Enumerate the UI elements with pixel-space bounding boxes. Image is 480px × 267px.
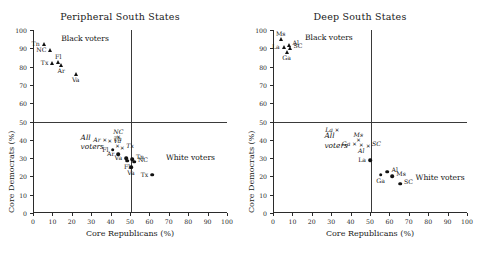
x-tick-label: 100 — [461, 218, 473, 225]
x-tick-label: 90 — [444, 218, 452, 225]
y-tick — [270, 67, 273, 68]
x-tick-label: 60 — [145, 218, 153, 225]
plot-inner: Black votersWhite votersAllvotersTnNCFlT… — [34, 30, 227, 212]
x-tick-label: 100 — [221, 218, 233, 225]
data-point-label: Ar — [57, 67, 64, 74]
x-tick-label: 90 — [204, 218, 212, 225]
panel-title: Deep South States — [240, 11, 480, 22]
data-point-marker: ✕ — [352, 142, 356, 146]
data-point-label: Ms — [354, 131, 364, 138]
x-tick — [292, 213, 293, 216]
x-tick-label: 70 — [165, 218, 173, 225]
y-tick — [30, 140, 33, 141]
data-point-marker: ✕ — [335, 128, 339, 132]
y-tick — [30, 85, 33, 86]
x-tick-label: 20 — [308, 218, 316, 225]
data-point-label: Tx — [41, 59, 49, 66]
x-tick-label: 40 — [347, 218, 355, 225]
y-tick-label: 70 — [9, 81, 27, 88]
x-tick — [91, 213, 92, 216]
group-annotation: White voters — [416, 173, 465, 182]
x-tick — [273, 213, 274, 216]
data-point-marker — [368, 158, 372, 162]
data-point-label: SC — [294, 42, 303, 49]
y-tick — [30, 67, 33, 68]
x-tick — [227, 213, 228, 216]
group-annotation: Black voters — [61, 34, 109, 43]
y-tick — [270, 213, 273, 214]
y-tick — [30, 158, 33, 159]
x-tick-label: 50 — [126, 218, 134, 225]
data-point-marker — [398, 182, 402, 186]
data-point-label: Tx — [141, 171, 149, 178]
panel-deep-south: Deep South States Black votersWhite vote… — [240, 0, 480, 267]
y-tick — [270, 140, 273, 141]
y-tick — [30, 30, 33, 31]
data-point-label: Va — [127, 169, 135, 176]
panel-peripheral-south: Peripheral South States Black votersWhit… — [0, 0, 240, 267]
x-tick-label: 0 — [31, 218, 35, 225]
plot-inner: Black votersWhite votersAllvotersMsAlSCL… — [274, 30, 467, 212]
group-annotation: All — [81, 133, 91, 142]
data-point-label: Ms — [396, 170, 406, 177]
x-axis-title: Core Republicans (%) — [86, 229, 174, 238]
x-tick — [111, 213, 112, 216]
x-tick-label: 80 — [424, 218, 432, 225]
data-point-label: SC — [372, 140, 381, 147]
x-tick-label: 10 — [288, 218, 296, 225]
x-tick — [467, 213, 468, 216]
data-point-marker — [42, 42, 46, 46]
data-point-marker — [282, 45, 286, 49]
data-point-marker — [151, 173, 155, 177]
y-tick — [270, 195, 273, 196]
y-tick-label: 50 — [9, 118, 27, 125]
x-tick-label: 10 — [48, 218, 56, 225]
x-tick-label: 30 — [87, 218, 95, 225]
y-tick — [270, 122, 273, 123]
y-tick — [270, 30, 273, 31]
data-point-marker: ✕ — [115, 144, 119, 148]
figure-scatter-pair: Peripheral South States Black votersWhit… — [0, 0, 480, 267]
y-tick — [270, 176, 273, 177]
x-tick-label: 0 — [271, 218, 275, 225]
x-axis-title: Core Republicans (%) — [326, 229, 414, 238]
panel-title: Peripheral South States — [0, 11, 240, 22]
plot-area: Black votersWhite votersAllvotersTnNCFlT… — [33, 30, 227, 213]
data-point-label: La — [325, 126, 333, 133]
x-tick — [149, 213, 150, 216]
y-tick — [30, 48, 33, 49]
y-tick-label: 60 — [249, 100, 267, 107]
x-tick — [52, 213, 53, 216]
x-tick — [188, 213, 189, 216]
group-annotation: Black voters — [305, 33, 353, 42]
data-point-label: Va — [114, 137, 122, 144]
y-tick-label: 50 — [249, 118, 267, 125]
data-point-label: NC — [138, 156, 148, 163]
x-tick — [130, 213, 131, 216]
data-point-label: SC — [404, 178, 413, 185]
y-tick — [270, 85, 273, 86]
x-tick — [72, 213, 73, 216]
y-tick — [30, 103, 33, 104]
data-point-marker — [48, 48, 52, 52]
data-point-label: Ga — [282, 54, 291, 61]
reference-line-vertical — [131, 30, 132, 212]
x-tick — [428, 213, 429, 216]
y-tick — [30, 122, 33, 123]
x-tick-label: 20 — [68, 218, 76, 225]
y-tick — [30, 195, 33, 196]
y-tick-label: 70 — [249, 81, 267, 88]
x-tick-label: 80 — [184, 218, 192, 225]
data-point-marker — [50, 61, 54, 65]
y-tick — [270, 158, 273, 159]
data-point-label: Fl — [55, 53, 61, 60]
y-tick — [30, 213, 33, 214]
x-tick-label: 70 — [405, 218, 413, 225]
y-tick — [270, 48, 273, 49]
x-tick — [33, 213, 34, 216]
group-annotation: voters — [81, 142, 104, 151]
y-axis-title: Core Democrats (%) — [247, 131, 256, 213]
data-point-marker: ✕ — [366, 144, 370, 148]
y-tick-label: 60 — [9, 100, 27, 107]
data-point-marker: ✕ — [120, 146, 124, 150]
